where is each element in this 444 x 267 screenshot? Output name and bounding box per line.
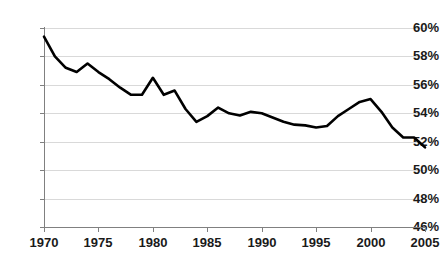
- series-line-path: [44, 37, 425, 148]
